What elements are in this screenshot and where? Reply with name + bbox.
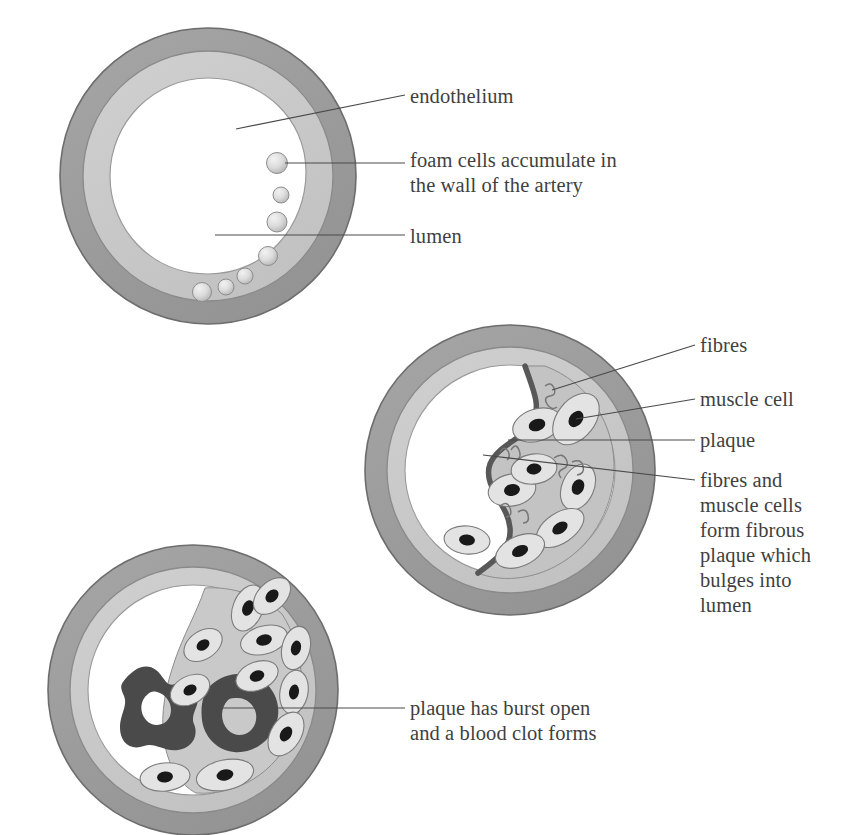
panel-fibrous-plaque [365, 325, 695, 615]
artery-atherosclerosis-diagram: endothelium foam cells accumulate in the… [0, 0, 865, 835]
label-endothelium: endothelium [410, 84, 514, 109]
label-lumen: lumen [410, 224, 462, 249]
lumen-area [110, 78, 306, 274]
foam-cell [267, 212, 287, 232]
label-foam-cells: foam cells accumulate in the wall of the… [410, 148, 640, 198]
panel-early-fatty-streak [60, 28, 405, 324]
foam-cell [237, 268, 253, 284]
label-fibres: fibres [700, 333, 747, 358]
foam-cell [259, 247, 278, 266]
label-fibrous-plaque: fibres and muscle cells form fibrous pla… [700, 468, 850, 618]
foam-cell [267, 153, 288, 174]
foam-cell [218, 279, 234, 295]
label-muscle-cell: muscle cell [700, 387, 794, 412]
label-burst-plaque: plaque has burst open and a blood clot f… [410, 696, 670, 746]
foam-cell [193, 283, 212, 302]
foam-cell [273, 187, 289, 203]
panel-ruptured-plaque [48, 545, 405, 835]
label-plaque: plaque [700, 428, 755, 453]
